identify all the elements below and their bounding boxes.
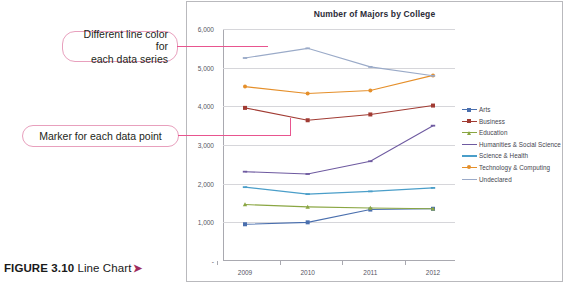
y-axis-tick-label: 3,000 — [198, 142, 214, 149]
series-line-technology-computing — [245, 75, 433, 93]
x-axis-tick-mark — [405, 261, 406, 265]
legend-item-technology-computing[interactable]: Technology & Computing — [462, 164, 562, 171]
chart-container: Number of Majors by College 6,0005,0004,… — [186, 1, 563, 282]
figure-number: FIGURE 3.10 — [4, 262, 74, 274]
legend-label: Humanities & Social Science — [479, 141, 561, 148]
series-line-business — [245, 106, 433, 121]
legend-label: Science & Health — [479, 152, 528, 159]
data-point-marker — [368, 112, 372, 116]
legend-label: Undeclared — [479, 176, 512, 183]
chart-legend: ArtsBusinessEducationHumanities & Social… — [462, 106, 562, 183]
series-line-undeclared — [245, 48, 433, 75]
callout-line-color-text: Different line color for each data serie… — [63, 28, 177, 66]
x-axis-tick-mark — [342, 261, 343, 265]
data-point-marker — [243, 222, 247, 226]
data-point-marker — [243, 57, 247, 59]
callout-marker-text: Marker for each data point — [30, 130, 171, 143]
y-axis-tick-label: 6,000 — [198, 26, 214, 33]
figure-arrow-icon: ➤ — [133, 262, 142, 274]
callout-line-color-connector — [177, 46, 268, 47]
data-point-marker — [306, 118, 310, 122]
series-line-education — [245, 205, 433, 209]
legend-label: Education — [479, 129, 507, 136]
x-axis-tick-label: 2012 — [426, 269, 440, 276]
legend-swatch-icon — [462, 118, 477, 125]
legend-label: Business — [479, 118, 505, 125]
x-axis-tick-mark — [217, 261, 218, 265]
x-axis-tick-mark — [280, 261, 281, 265]
figure-caption: FIGURE 3.10 Line Chart➤ — [4, 262, 194, 282]
legend-label: Technology & Computing — [479, 164, 550, 171]
series-line-humanities-social-science — [245, 126, 433, 174]
data-point-marker — [368, 88, 372, 92]
legend-item-undeclared[interactable]: Undeclared — [462, 176, 562, 183]
data-point-marker — [306, 220, 310, 224]
legend-item-arts[interactable]: Arts — [462, 106, 562, 113]
series-layer — [223, 29, 455, 261]
legend-item-business[interactable]: Business — [462, 118, 562, 125]
data-point-marker — [243, 106, 247, 110]
x-axis-tick-label: 2009 — [238, 269, 252, 276]
legend-swatch-icon — [462, 176, 477, 183]
legend-item-science-health[interactable]: Science & Health — [462, 152, 562, 159]
plot-area: 6,0005,0004,0003,0002,0001,000- 20092010… — [223, 29, 455, 261]
gridline — [223, 261, 455, 262]
data-point-marker — [243, 186, 247, 188]
callout-marker-connector — [178, 135, 291, 136]
legend-swatch-icon — [462, 152, 477, 159]
y-axis-tick-label: 5,000 — [198, 64, 214, 71]
legend-swatch-icon — [462, 106, 477, 113]
callout-line-color: Different line color for each data serie… — [62, 31, 178, 62]
data-point-marker — [431, 104, 435, 108]
data-point-marker — [305, 173, 309, 175]
legend-swatch-icon — [462, 141, 477, 148]
y-axis-tick-label: 2,000 — [198, 180, 214, 187]
legend-item-humanities-social-science[interactable]: Humanities & Social Science — [462, 141, 562, 148]
series-line-science-health — [245, 187, 433, 194]
data-point-marker — [368, 66, 372, 68]
data-point-marker — [368, 191, 372, 193]
data-point-marker — [243, 171, 247, 173]
x-axis-tick-label: 2010 — [300, 269, 314, 276]
legend-swatch-icon — [462, 164, 477, 171]
callout-marker: Marker for each data point — [22, 125, 179, 147]
callout-marker-connector-vertical — [290, 118, 291, 136]
data-point-marker — [305, 47, 309, 49]
legend-item-education[interactable]: Education — [462, 129, 562, 136]
x-axis-tick-label: 2011 — [363, 269, 377, 276]
legend-label: Arts — [479, 106, 490, 113]
data-point-marker — [431, 187, 435, 189]
chart-title: Number of Majors by College — [187, 9, 562, 19]
y-axis-tick-label: 4,000 — [198, 103, 214, 110]
series-line-arts — [245, 209, 433, 224]
data-point-marker — [431, 125, 435, 127]
data-point-marker — [306, 92, 310, 96]
data-point-marker — [431, 75, 435, 77]
data-point-marker — [305, 193, 309, 195]
legend-swatch-icon — [462, 129, 477, 136]
data-point-marker — [243, 85, 247, 89]
figure-title: Line Chart — [77, 262, 131, 274]
data-point-marker — [368, 160, 372, 162]
y-axis-tick-label: - — [212, 258, 214, 265]
y-axis-tick-label: 1,000 — [198, 219, 214, 226]
